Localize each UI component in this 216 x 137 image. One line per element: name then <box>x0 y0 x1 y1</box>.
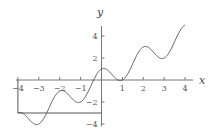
chart: −4−3−2−1123442−2−4 x y <box>0 0 216 137</box>
x-tick-label: −1 <box>75 84 87 93</box>
x-tick-label: 2 <box>141 84 146 93</box>
y-tick-label: 4 <box>92 32 97 41</box>
y-tick-label: −2 <box>86 98 98 107</box>
y-tick-label: −4 <box>86 120 98 129</box>
x-tick-label: 1 <box>120 84 125 93</box>
x-tick-label: −3 <box>33 84 45 93</box>
axes <box>16 26 193 126</box>
x-tick-label: −2 <box>54 84 66 93</box>
x-tick-label: 4 <box>183 84 188 93</box>
y-tick-label: 2 <box>92 54 97 63</box>
y-axis-label: y <box>96 6 104 19</box>
x-tick-label: 3 <box>162 84 167 93</box>
x-axis-label: x <box>199 74 206 87</box>
